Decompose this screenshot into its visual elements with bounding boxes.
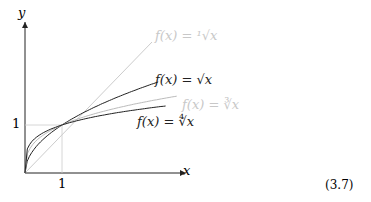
equation-number: (3.7): [325, 178, 353, 192]
label-sqrt: f(x) = √x: [155, 72, 212, 87]
label-root1: f(x) = ¹√x: [155, 28, 217, 43]
label-4rt: f(x) = ∜x: [137, 114, 194, 129]
x-axis-label: x: [183, 163, 190, 178]
y-tick-1: 1: [12, 116, 20, 131]
x-tick-1: 1: [58, 176, 66, 191]
label-cbrt: f(x) = ∛x: [182, 97, 239, 112]
y-axis-label: y: [18, 5, 25, 20]
figure: y x 1 1 f(x) = ¹√x f(x) = √x f(x) = ∛x f…: [0, 0, 371, 202]
